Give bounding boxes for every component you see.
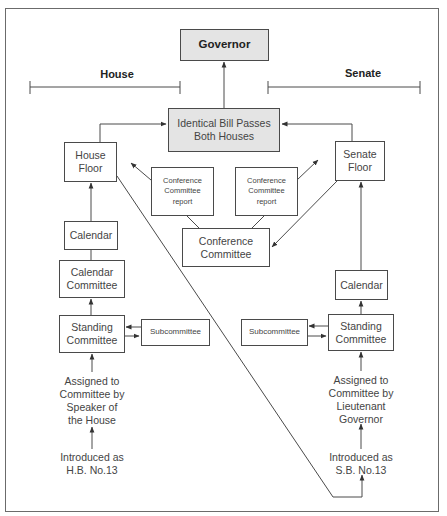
senate-introduced-text: Introduced as S.B. No.13 <box>329 451 393 477</box>
house-chamber-label: House <box>100 68 134 80</box>
house-calendar-node: Calendar <box>64 221 118 250</box>
edge-conf-report-left-to-house-floor <box>131 163 151 180</box>
senate-standing-committee-node: Standing Committee <box>328 314 394 351</box>
house-introduced-text: Introduced as H.B. No.13 <box>60 451 124 477</box>
house-subcommittee-node: Subcommittee <box>141 319 210 346</box>
senate-bracket <box>268 81 420 94</box>
conference-report-right-node: Conference Committee report <box>235 167 298 216</box>
house-floor-node: House Floor <box>64 142 117 182</box>
senate-chamber-label: Senate <box>345 67 381 79</box>
conference-committee-node: Conference Committee <box>182 228 270 267</box>
senate-floor-node: Senate Floor <box>335 141 385 181</box>
house-bracket <box>30 81 180 94</box>
conference-report-left-node: Conference Committee report <box>151 167 214 216</box>
edge-house-floor-to-identical <box>100 124 166 142</box>
senate-assigned-text: Assigned to Committee by Lieutenant Gove… <box>329 374 394 427</box>
house-calendar-committee-node: Calendar Committee <box>59 260 125 298</box>
house-assigned-text: Assigned to Committee by Speaker of the … <box>60 375 125 428</box>
house-standing-committee-node: Standing Committee <box>59 315 125 353</box>
senate-calendar-node: Calendar <box>335 270 388 300</box>
senate-subcommittee-node: Subcommittee <box>241 319 308 346</box>
edge-conf-committee-to-report-right <box>252 215 265 228</box>
governor-node: Governor <box>180 29 269 61</box>
edge-conf-committee-to-report-left <box>186 215 199 228</box>
identical-bill-node: Identical Bill Passes Both Houses <box>168 108 280 152</box>
edge-senate-floor-to-identical <box>282 124 352 141</box>
edge-conf-report-right-to-senate-floor <box>297 160 318 180</box>
